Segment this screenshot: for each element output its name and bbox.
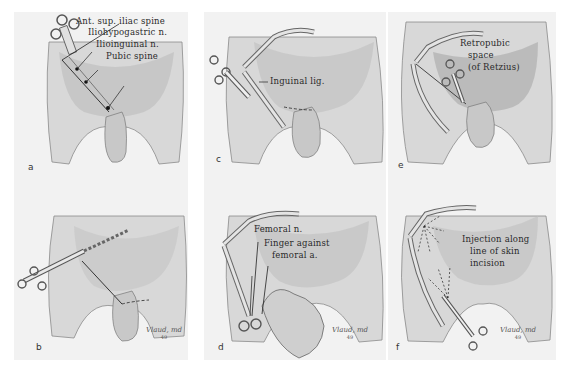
panel-a: Ant. sup. iliac spine Iliohypogastric n.… [14, 12, 188, 186]
panel-f: Injection along line of skin incision f … [388, 186, 556, 360]
panel-letter-a: a [28, 162, 34, 172]
artist-signature: Vlaud, md49 [332, 326, 368, 340]
panel-letter-c: c [216, 154, 221, 164]
panel-letter-f: f [396, 342, 399, 352]
label-ilioinguinal-n: Ilioinguinal n. [96, 39, 159, 49]
artist-signature: Vlaud, md49 [500, 326, 536, 340]
panel-b: b Vlaud, md49 [14, 186, 188, 360]
figure-column-3: Retropubic space (of Retzius) e [388, 12, 556, 360]
panel-d: Femoral n. Finger against femoral a. d V… [204, 186, 386, 360]
panel-e: Retropubic space (of Retzius) e [388, 12, 556, 186]
genitalia [105, 112, 127, 162]
label-of-retzius: (of Retzius) [468, 62, 520, 72]
label-ant-sup-iliac-spine: Ant. sup. iliac spine [76, 16, 165, 26]
label-retropubic: Retropubic [460, 38, 510, 48]
label-femoral-n: Femoral n. [254, 224, 302, 234]
genitalia [467, 102, 495, 147]
label-line-of-skin: line of skin [470, 246, 520, 256]
label-iliohypogastric-n: Iliohypogastric n. [88, 27, 167, 37]
label-space: space [468, 50, 494, 60]
panel-letter-b: b [36, 342, 42, 352]
artist-signature: Vlaud, md49 [146, 326, 182, 340]
panel-c: Inguinal lig. c [204, 12, 386, 186]
figure-column-2: Inguinal lig. c Femoral n. Finger agains… [204, 12, 386, 360]
panel-c-illustration [204, 12, 386, 186]
label-finger-against: Finger against [264, 238, 330, 248]
figure-column-1: Ant. sup. iliac spine Iliohypogastric n.… [14, 12, 188, 360]
label-injection-along: Injection along [462, 234, 530, 244]
label-femoral-a: femoral a. [272, 250, 318, 260]
genitalia [292, 107, 320, 157]
panel-letter-e: e [398, 160, 404, 170]
label-inguinal-lig: Inguinal lig. [270, 76, 325, 86]
panel-letter-d: d [218, 342, 224, 352]
label-incision: incision [470, 258, 505, 268]
label-pubic-spine: Pubic spine [106, 51, 158, 61]
